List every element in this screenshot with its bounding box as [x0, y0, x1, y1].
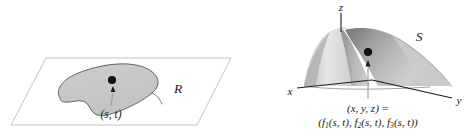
domain-point-label: (s, t) [100, 108, 121, 121]
left-panel-group: R (s, t) [11, 58, 231, 125]
formula-line-1: (x, y, z) = [347, 102, 389, 115]
y-axis-label: y [456, 94, 462, 106]
formula-f2-args: (s, t), [361, 116, 384, 129]
figure-canvas: R (s, t) [0, 0, 469, 137]
surface-point-dot [364, 48, 372, 56]
region-tail-accent [152, 93, 162, 104]
x-axis-label: x [287, 85, 293, 97]
formula-f3-args: (s, t)) [394, 116, 418, 129]
surface-label: S [416, 29, 423, 44]
formula-line-2: (f1(s, t), f2(s, t), f3(s, t)) [318, 116, 418, 130]
region-label: R [173, 81, 183, 96]
z-axis-label: z [338, 1, 344, 13]
domain-point-dot [108, 76, 116, 84]
formula-f1-args: (s, t), [329, 116, 352, 129]
math-figure: R (s, t) [0, 0, 469, 137]
right-panel-group: x y z S (x, y, z) = (f1(s, t), f2(s, t),… [287, 1, 462, 130]
